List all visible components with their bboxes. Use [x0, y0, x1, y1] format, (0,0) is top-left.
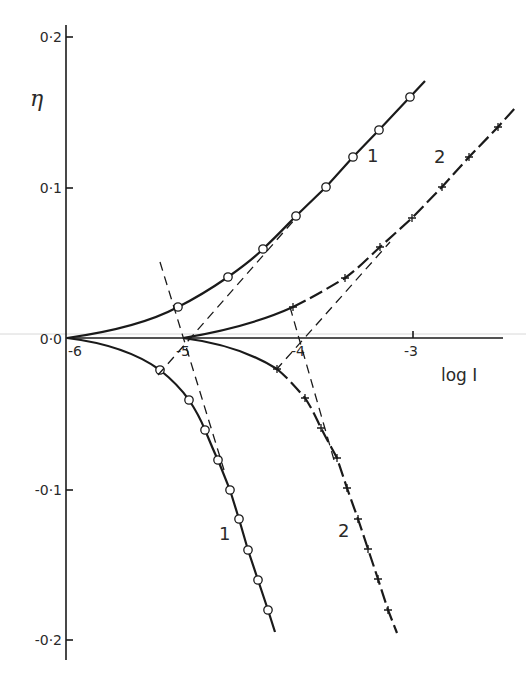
y-axis-label: η — [30, 86, 43, 111]
x-tick-label: -3 — [404, 343, 418, 359]
curve-1-lower-label: 1 — [219, 523, 230, 544]
curve-1-markers — [156, 93, 414, 614]
curve-2-lower-label: 2 — [338, 520, 349, 541]
y-tick-label: 0·2 — [40, 29, 62, 45]
y-tick-label: -0·2 — [35, 632, 62, 648]
curve-2-upper-label: 2 — [434, 146, 445, 167]
y-tick-label: 0·1 — [40, 180, 62, 196]
curve-1-upper-label: 1 — [367, 145, 378, 166]
x-axis-label: log I — [441, 365, 477, 385]
x-tick-label: -6 — [68, 343, 82, 359]
y-tick-label: -0·1 — [35, 482, 62, 498]
tafel-plot: 0·2 0·1 0·0 -0·1 -0·2 -6 -5 -4 -3 η log … — [0, 0, 526, 679]
y-tick-label: 0·0 — [40, 331, 62, 347]
